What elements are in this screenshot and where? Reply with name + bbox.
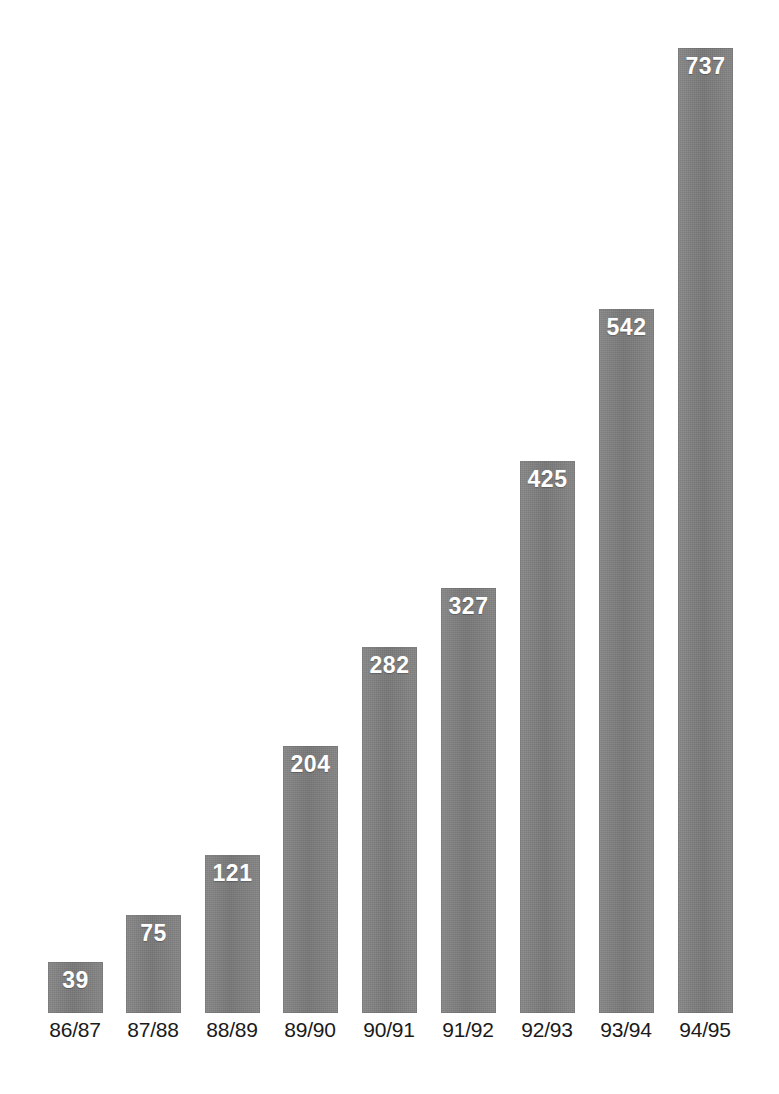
- x-axis-category-label: 92/93: [508, 1019, 586, 1040]
- bar-group: 282: [362, 647, 417, 1013]
- bar-rect[interactable]: 327: [441, 588, 496, 1013]
- bar-value-label: 282: [362, 654, 417, 677]
- bar-group: 204: [283, 746, 338, 1013]
- bar-rect[interactable]: 121: [205, 855, 260, 1013]
- bar-group: 39: [48, 962, 103, 1013]
- bar-value-label: 425: [520, 468, 575, 491]
- bar-rect[interactable]: 737: [678, 48, 733, 1013]
- bar-value-label: 204: [283, 753, 338, 776]
- bar-value-label: 39: [48, 969, 103, 992]
- bar-value-label: 737: [678, 55, 733, 78]
- x-axis-category-label: 89/90: [271, 1019, 349, 1040]
- x-axis-category-label: 87/88: [114, 1019, 192, 1040]
- bar-group: 425: [520, 461, 575, 1013]
- bar-value-label: 327: [441, 595, 496, 618]
- x-axis-category-label: 93/94: [587, 1019, 665, 1040]
- bar-value-label: 121: [205, 862, 260, 885]
- bar-value-label: 542: [599, 316, 654, 339]
- bar-rect[interactable]: 204: [283, 746, 338, 1013]
- x-axis-category-label: 86/87: [36, 1019, 114, 1040]
- bar-rect[interactable]: 282: [362, 647, 417, 1013]
- bar-rect[interactable]: 542: [599, 309, 654, 1013]
- bar-rect[interactable]: 425: [520, 461, 575, 1013]
- plot-area: 39 75 121 204 282 327: [0, 0, 779, 1013]
- x-axis-category-label: 88/89: [193, 1019, 271, 1040]
- bar-group: 542: [599, 309, 654, 1013]
- bar-rect[interactable]: 75: [126, 915, 181, 1013]
- bar-rect[interactable]: 39: [48, 962, 103, 1013]
- x-axis-category-label: 90/91: [350, 1019, 428, 1040]
- bar-group: 327: [441, 588, 496, 1013]
- bar-chart-figure: 39 75 121 204 282 327: [0, 0, 779, 1094]
- bar-group: 737: [678, 48, 733, 1013]
- x-axis-category-label: 94/95: [666, 1019, 744, 1040]
- bar-group: 121: [205, 855, 260, 1013]
- bar-value-label: 75: [126, 922, 181, 945]
- bar-group: 75: [126, 915, 181, 1013]
- x-axis-category-label: 91/92: [429, 1019, 507, 1040]
